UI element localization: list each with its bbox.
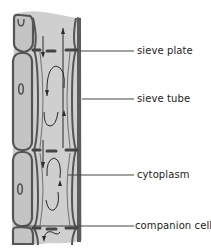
label-cytoplasm: cytoplasm: [137, 169, 190, 181]
companion-cell-middle: [13, 53, 32, 150]
label-sieve-tube: sieve tube: [137, 93, 190, 105]
phloem-diagram: [0, 0, 211, 251]
companion-cell-column: [13, 15, 33, 244]
label-companion-cell: companion cell: [135, 220, 211, 232]
label-sieve-plate: sieve plate: [137, 45, 193, 57]
companion-cell-bottom: [13, 227, 33, 244]
